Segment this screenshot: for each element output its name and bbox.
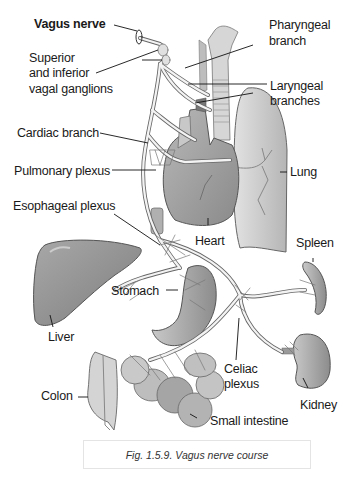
label-pharyngeal-line2: branch <box>269 34 306 48</box>
figure-caption: Fig. 1.5.9. Vagus nerve course <box>126 449 269 461</box>
label-pharyngeal-line1: Pharyngeal <box>269 18 330 32</box>
label-spleen: Spleen <box>296 236 334 250</box>
label-esophageal-plexus: Esophageal plexus <box>13 199 115 213</box>
label-heart: Heart <box>195 234 225 248</box>
label-colon: Colon <box>41 389 73 403</box>
figure-caption-box: Fig. 1.5.9. Vagus nerve course <box>83 440 311 469</box>
label-vagal-ganglions-line3: vagal ganglions <box>29 82 113 96</box>
label-vagal-ganglions-line1: Superior <box>29 51 75 65</box>
label-lung: Lung <box>290 165 317 179</box>
label-cardiac-branch: Cardiac branch <box>17 126 99 140</box>
label-celiac-line2: plexus <box>224 377 259 391</box>
label-celiac-line1: Celiac <box>224 362 258 376</box>
kidney <box>293 334 330 388</box>
label-vagal-ganglions-line2: and inferior <box>29 66 89 80</box>
label-vagus-nerve: Vagus nerve <box>34 17 105 31</box>
label-pulmonary-plexus: Pulmonary plexus <box>14 164 110 178</box>
label-laryngeal-line2: branches <box>270 94 320 108</box>
label-small-intestine: Small intestine <box>210 414 288 428</box>
label-liver: Liver <box>48 330 74 344</box>
label-laryngeal-line1: Laryngeal <box>270 79 323 93</box>
spleen <box>303 262 327 314</box>
label-kidney: Kidney <box>300 398 337 412</box>
small-intestine <box>121 353 224 427</box>
stomach <box>152 266 216 346</box>
label-stomach: Stomach <box>111 284 159 298</box>
colon <box>88 352 118 430</box>
lung <box>234 88 287 252</box>
